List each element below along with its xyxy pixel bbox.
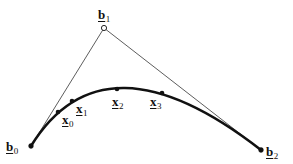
control-point-b0-marker	[29, 144, 34, 149]
diagram-canvas	[0, 0, 293, 164]
label-b1: b1	[98, 8, 110, 24]
bezier-diagram: b1 b0 b2 x0 x1 x2 x3	[0, 0, 293, 164]
label-x3: x3	[150, 95, 162, 111]
curve-point-x0-marker	[56, 110, 61, 115]
label-b0: b0	[6, 140, 18, 156]
control-point-b2-marker	[259, 148, 264, 153]
curve-point-x2-marker	[115, 87, 120, 92]
curve-point-x1-marker	[70, 99, 75, 104]
control-point-b1-marker	[101, 25, 106, 30]
label-b2: b2	[266, 145, 278, 161]
label-x1: x1	[76, 102, 88, 118]
label-x0: x0	[62, 113, 74, 129]
label-x2: x2	[112, 95, 124, 111]
point-markers	[29, 25, 264, 152]
